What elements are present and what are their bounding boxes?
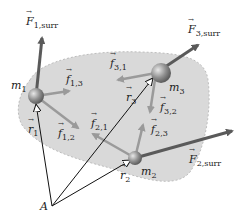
mass-m3 — [151, 63, 171, 83]
label-m1: m1 — [11, 80, 27, 94]
label-f31: f3,1 — [110, 58, 127, 72]
label-f12: f1,2 — [58, 128, 75, 142]
mass-m2 — [128, 151, 142, 165]
label-F3surr: F3,surr — [188, 24, 220, 38]
label-f13: f1,3 — [66, 74, 83, 88]
label-f32: f3,2 — [160, 102, 177, 116]
label-m2: m2 — [141, 166, 157, 180]
label-f23: f2,3 — [151, 124, 168, 138]
label-F1surr: F1,surr — [26, 16, 58, 30]
label-r3: r3 — [126, 92, 136, 106]
label-f21: f2,1 — [91, 118, 108, 132]
label-F2surr: F2,surr — [189, 154, 221, 168]
label-m3: m3 — [169, 82, 185, 96]
label-r2: r2 — [120, 170, 130, 184]
mass-m1 — [28, 88, 44, 104]
system-of-particles-diagram: F1,surr F3,surr F2,surr m1 m3 m2 f1,3 f1… — [0, 0, 244, 221]
label-r1: r1 — [28, 124, 38, 138]
label-origin-A: A — [40, 201, 48, 212]
